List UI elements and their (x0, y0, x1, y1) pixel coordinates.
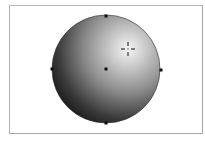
sphere-illustration (0, 0, 205, 143)
anchor-point-top[interactable] (105, 15, 108, 18)
crosshair-center (128, 49, 129, 50)
anchor-point-left[interactable] (51, 68, 54, 71)
anchor-point-bottom[interactable] (105, 122, 108, 125)
center-point[interactable] (105, 68, 108, 71)
anchor-point-right[interactable] (160, 69, 163, 72)
